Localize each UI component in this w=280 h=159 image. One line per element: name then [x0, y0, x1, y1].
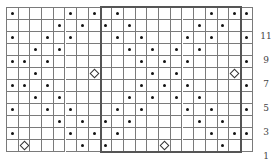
dot-icon [58, 96, 61, 99]
chart-cell [66, 92, 78, 104]
chart-cell [66, 68, 78, 80]
chart-cell [54, 56, 66, 68]
chart-cell [42, 116, 54, 128]
chart-cell [77, 8, 89, 20]
chart-cell [19, 20, 31, 32]
dot-icon [58, 24, 61, 27]
knitting-chart: 1357911 [0, 0, 280, 159]
chart-cell [42, 8, 54, 20]
chart-cell [19, 8, 31, 20]
dot-icon [245, 60, 248, 63]
chart-cell [30, 20, 42, 32]
dot-icon [46, 108, 49, 111]
dot-icon [245, 84, 248, 87]
dot-icon [245, 108, 248, 111]
chart-cell [30, 140, 42, 152]
chart-cell [77, 104, 89, 116]
chart-cell [19, 104, 31, 116]
chart-cell [54, 128, 66, 140]
chart-cell [19, 44, 31, 56]
chart-cell [241, 68, 253, 80]
chart-cell [77, 44, 89, 56]
chart-cell [66, 44, 78, 56]
chart-cell [30, 56, 42, 68]
chart-cell [54, 140, 66, 152]
chart-cell [30, 104, 42, 116]
repeat-box [100, 6, 242, 153]
dot-icon [11, 84, 14, 87]
row-number-label: 5 [256, 103, 276, 113]
chart-cell [241, 20, 253, 32]
chart-cell [241, 44, 253, 56]
chart-cell [19, 32, 31, 44]
chart-cell [54, 68, 66, 80]
chart-cell [19, 68, 31, 80]
chart-cell [66, 20, 78, 32]
chart-cell [66, 140, 78, 152]
chart-cell [54, 32, 66, 44]
dot-icon [58, 48, 61, 51]
chart-cell [19, 116, 31, 128]
dot-icon [46, 84, 49, 87]
dot-icon [23, 60, 26, 63]
dot-icon [93, 132, 96, 135]
chart-cell [42, 20, 54, 32]
chart-cell [7, 92, 19, 104]
chart-cell [7, 140, 19, 152]
dot-icon [11, 12, 14, 15]
chart-cell [42, 44, 54, 56]
chart-cell [30, 80, 42, 92]
dot-icon [93, 12, 96, 15]
chart-cell [30, 116, 42, 128]
chart-cell [241, 116, 253, 128]
chart-cell [77, 80, 89, 92]
chart-cell [77, 56, 89, 68]
chart-cell [77, 92, 89, 104]
chart-cell [77, 32, 89, 44]
dot-icon [46, 36, 49, 39]
row-number-label: 3 [256, 127, 276, 137]
chart-cell [241, 92, 253, 104]
chart-cell [30, 8, 42, 20]
chart-cell [66, 80, 78, 92]
chart-cell [42, 128, 54, 140]
chart-cell [30, 32, 42, 44]
chart-cell [42, 92, 54, 104]
chart-cell [19, 92, 31, 104]
chart-cell [66, 56, 78, 68]
dot-icon [46, 60, 49, 63]
chart-cell [241, 140, 253, 152]
row-number-label: 9 [256, 55, 276, 65]
chart-cell [42, 140, 54, 152]
dot-icon [58, 120, 61, 123]
chart-cell [54, 8, 66, 20]
dot-icon [11, 60, 14, 63]
row-number-label: 7 [256, 79, 276, 89]
dot-icon [11, 36, 14, 39]
dot-icon [245, 132, 248, 135]
dot-icon [11, 132, 14, 135]
chart-cell [42, 68, 54, 80]
chart-cell [77, 68, 89, 80]
chart-cell [77, 128, 89, 140]
dot-icon [11, 108, 14, 111]
row-number-label: 1 [256, 151, 276, 159]
chart-cell [30, 128, 42, 140]
chart-cell [7, 116, 19, 128]
dot-icon [23, 84, 26, 87]
row-number-label: 11 [256, 31, 276, 41]
chart-cell [54, 80, 66, 92]
chart-cell [7, 20, 19, 32]
chart-cell [54, 104, 66, 116]
dot-icon [245, 12, 248, 15]
dot-icon [245, 36, 248, 39]
chart-cell [19, 128, 31, 140]
chart-cell [7, 68, 19, 80]
chart-cell [7, 44, 19, 56]
chart-cell [66, 116, 78, 128]
